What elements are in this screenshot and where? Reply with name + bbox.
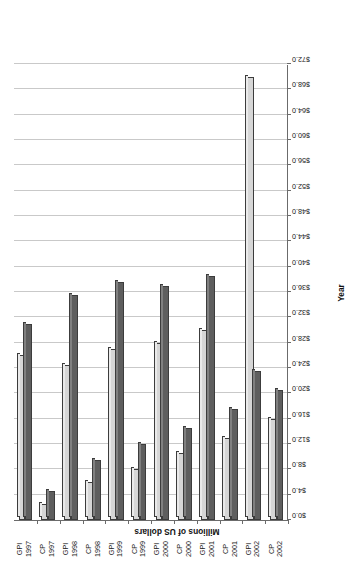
category-axis-tick bbox=[60, 520, 61, 524]
category-axis-label-line: 1997 bbox=[48, 526, 57, 572]
bar-3d-cap bbox=[39, 502, 42, 517]
value-axis-tick-label: $44.0 bbox=[283, 232, 301, 241]
category-axis-label-line: 2000 bbox=[162, 526, 171, 572]
value-axis-tick-label: $64.0 bbox=[283, 106, 301, 115]
bar-3d-cap bbox=[92, 458, 95, 517]
bar bbox=[140, 444, 147, 520]
category-axis-label-line: 1998 bbox=[71, 526, 80, 572]
value-axis-tick-label: $28.0 bbox=[283, 334, 301, 343]
value-axis-tick-label: $48.0 bbox=[283, 207, 301, 216]
value-axis-tick-label: $8.0 bbox=[285, 460, 299, 469]
category-axis-label: GPI1998 bbox=[62, 526, 79, 572]
category-axis-tick bbox=[265, 520, 266, 524]
bar bbox=[117, 283, 124, 521]
bar-3d-cap bbox=[23, 322, 26, 517]
bar-3d-cap bbox=[229, 407, 232, 517]
bar-3d-cap bbox=[183, 426, 186, 517]
category-axis-label-line: 1998 bbox=[94, 526, 103, 572]
category-axis-tick bbox=[174, 520, 175, 524]
bar-3d-cap bbox=[268, 417, 271, 517]
value-axis-tick-label: $52.0 bbox=[283, 182, 301, 191]
bar-3d-cap bbox=[138, 442, 141, 517]
bar-3d-cap bbox=[222, 436, 225, 517]
category-axis-label: CP1998 bbox=[85, 526, 102, 572]
bar-3d-cap bbox=[206, 274, 209, 517]
value-axis-tick-label: $24.0 bbox=[283, 359, 301, 368]
category-axis-label-line: 2002 bbox=[276, 526, 285, 572]
bar-3d-cap bbox=[154, 341, 157, 517]
category-axis-tick bbox=[288, 520, 289, 524]
bar-3d-cap bbox=[62, 363, 65, 517]
value-axis-tick-label: $12.0 bbox=[283, 435, 301, 444]
bar-3d-cap bbox=[199, 328, 202, 517]
bar bbox=[162, 286, 169, 520]
bar-3d-cap bbox=[176, 452, 179, 518]
category-axis-tick bbox=[105, 520, 106, 524]
plot-area: $0.0$4.0$8.0$12.0$16.0$20.0$24.0$28.0$32… bbox=[14, 65, 288, 521]
category-axis-label-line: 2001 bbox=[208, 526, 217, 572]
bar bbox=[48, 492, 55, 521]
gridline bbox=[14, 63, 287, 64]
category-axis-tick bbox=[220, 520, 221, 524]
bar-3d-cap bbox=[115, 281, 118, 518]
value-axis-tick-label: $36.0 bbox=[283, 283, 301, 292]
bar-3d-cap bbox=[245, 75, 248, 517]
category-axis-label-line: 2000 bbox=[185, 526, 194, 572]
value-axis-tick-label: $60.0 bbox=[283, 131, 301, 140]
bar-3d-cap bbox=[275, 388, 278, 517]
category-axis-label-line: 1999 bbox=[116, 526, 125, 572]
bar bbox=[231, 409, 238, 520]
bar bbox=[71, 295, 78, 520]
bar-3d-cap bbox=[160, 284, 163, 517]
bar bbox=[208, 276, 215, 520]
category-axis-label: GPI1999 bbox=[108, 526, 125, 572]
category-axis-tick bbox=[37, 520, 38, 524]
bar bbox=[277, 390, 284, 520]
category-axis-label-line: 2002 bbox=[253, 526, 262, 572]
category-axis-label: CP2001 bbox=[222, 526, 239, 572]
value-axis-tick-label: $16.0 bbox=[283, 410, 301, 419]
bar-3d-cap bbox=[131, 467, 134, 517]
category-axis-label-line: 1999 bbox=[139, 526, 148, 572]
value-axis-tick-label: $0.0 bbox=[285, 511, 299, 520]
category-axis-label-line: 2001 bbox=[231, 526, 240, 572]
value-axis-tick-label: $72.0 bbox=[283, 55, 301, 64]
category-axis-label: GPI2001 bbox=[199, 526, 216, 572]
category-axis-label: CP1997 bbox=[39, 526, 56, 572]
category-axis-label: GPI1997 bbox=[16, 526, 33, 572]
bar-3d-cap bbox=[85, 480, 88, 517]
category-axis-tick bbox=[151, 520, 152, 524]
value-axis-tick-label: $68.0 bbox=[283, 80, 301, 89]
bar-3d-cap bbox=[252, 369, 255, 517]
value-axis-tick-label: $40.0 bbox=[283, 258, 301, 267]
bar bbox=[185, 428, 192, 520]
category-axis-label: CP2002 bbox=[268, 526, 285, 572]
bar-3d-cap bbox=[46, 490, 49, 518]
value-axis-tick-label: $32.0 bbox=[283, 308, 301, 317]
category-axis-title: Year bbox=[336, 65, 346, 521]
category-axis-label-line: 1997 bbox=[25, 526, 34, 572]
bar-3d-cap bbox=[108, 347, 111, 517]
category-axis-label: CP2000 bbox=[176, 526, 193, 572]
category-axis-tick bbox=[83, 520, 84, 524]
bar bbox=[25, 324, 32, 520]
category-axis-label: GPI2002 bbox=[245, 526, 262, 572]
chart-canvas: Millions of US dollars $0.0$4.0$8.0$12.0… bbox=[0, 0, 353, 577]
bar bbox=[254, 371, 261, 520]
bar-3d-cap bbox=[69, 293, 72, 517]
category-axis-tick bbox=[128, 520, 129, 524]
category-axis-label: GPI2000 bbox=[153, 526, 170, 572]
bar bbox=[94, 460, 101, 520]
value-axis-tick-label: $56.0 bbox=[283, 156, 301, 165]
category-axis-label: CP1999 bbox=[131, 526, 148, 572]
value-axis-tick-label: $4.0 bbox=[285, 486, 299, 495]
category-axis-tick bbox=[197, 520, 198, 524]
bar-chart: Millions of US dollars $0.0$4.0$8.0$12.0… bbox=[0, 0, 353, 577]
value-axis-tick-label: $20.0 bbox=[283, 384, 301, 393]
category-axis-tick bbox=[242, 520, 243, 524]
bar-3d-cap bbox=[17, 353, 20, 517]
